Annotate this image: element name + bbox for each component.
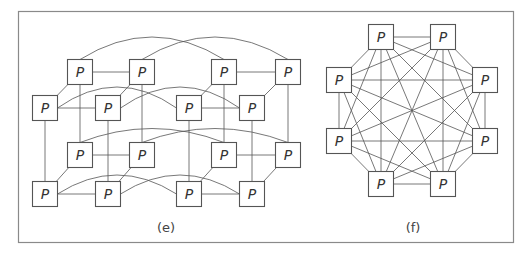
processor-label: P	[439, 176, 448, 192]
panel-e-hypercube: PPPPPPPPPPPPPPPP (e)	[33, 37, 301, 235]
processor-node: P	[327, 129, 352, 154]
hypercube-link-arc	[80, 37, 224, 60]
processor-label: P	[104, 100, 113, 116]
processor-label: P	[104, 186, 113, 202]
processor-node: P	[130, 60, 155, 85]
processor-label: P	[335, 72, 344, 88]
processor-node: P	[369, 25, 394, 50]
processor-label: P	[248, 100, 257, 116]
processor-label: P	[220, 147, 229, 163]
processor-label: P	[248, 186, 257, 202]
processor-node: P	[68, 60, 93, 85]
full-mesh-link	[339, 80, 443, 184]
processor-node: P	[212, 143, 237, 168]
processor-node: P	[276, 60, 301, 85]
full-mesh-link	[381, 37, 485, 141]
processor-node: P	[240, 182, 265, 207]
processor-node: P	[130, 143, 155, 168]
panel-f-fully-connected: PPPPPPPP (f)	[327, 25, 498, 235]
processor-node: P	[33, 182, 58, 207]
figure-canvas: PPPPPPPPPPPPPPPP (e) PPPPPPPP (f)	[0, 0, 531, 253]
processor-label: P	[284, 64, 293, 80]
processor-node: P	[177, 182, 202, 207]
processor-label: P	[138, 64, 147, 80]
panel-e-caption: (e)	[157, 220, 175, 235]
full-mesh-link	[339, 37, 443, 141]
panel-f-caption: (f)	[406, 220, 421, 235]
processor-label: P	[439, 29, 448, 45]
processor-node: P	[327, 68, 352, 93]
processor-label: P	[335, 133, 344, 149]
processor-node: P	[68, 143, 93, 168]
hypercube-link-arc	[142, 37, 288, 60]
processor-node: P	[431, 25, 456, 50]
processor-node: P	[33, 96, 58, 121]
processor-label: P	[284, 147, 293, 163]
processor-node: P	[96, 182, 121, 207]
processor-label: P	[185, 100, 194, 116]
processor-label: P	[138, 147, 147, 163]
processor-label: P	[377, 176, 386, 192]
full-mesh-link	[381, 80, 485, 184]
processor-label: P	[76, 147, 85, 163]
processor-node: P	[96, 96, 121, 121]
processor-label: P	[220, 64, 229, 80]
processor-node: P	[240, 96, 265, 121]
processor-node: P	[473, 68, 498, 93]
processor-label: P	[481, 133, 490, 149]
processor-label: P	[76, 64, 85, 80]
processor-label: P	[377, 29, 386, 45]
processor-label: P	[41, 186, 50, 202]
panel-e-nodes: PPPPPPPPPPPPPPPP	[33, 60, 301, 207]
processor-node: P	[431, 172, 456, 197]
hypercube-link-arc	[80, 129, 224, 143]
processor-label: P	[41, 100, 50, 116]
processor-node: P	[473, 129, 498, 154]
processor-node: P	[276, 143, 301, 168]
processor-node: P	[177, 96, 202, 121]
processor-label: P	[481, 72, 490, 88]
hypercube-link-arc	[142, 129, 288, 143]
processor-node: P	[369, 172, 394, 197]
panel-f-edges	[339, 37, 485, 184]
processor-label: P	[185, 186, 194, 202]
processor-node: P	[212, 60, 237, 85]
